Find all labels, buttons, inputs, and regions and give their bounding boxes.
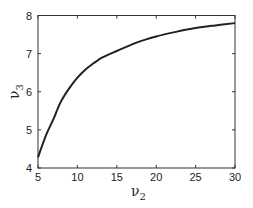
x-tick-label: 10 <box>71 171 83 183</box>
x-tick-label: 15 <box>111 171 123 183</box>
y-tick-label: 6 <box>26 86 32 98</box>
x-tick-labels: 51015202530 <box>35 171 241 183</box>
x-tick-label: 5 <box>35 171 41 183</box>
x-tick-label: 30 <box>229 171 241 183</box>
x-axis-label: ν2 <box>131 183 146 202</box>
x-tick-label: 20 <box>150 171 162 183</box>
y-axis-label-sub: 3 <box>14 84 25 90</box>
x-axis-label-sub: 2 <box>140 191 146 202</box>
x-tick-label: 25 <box>189 171 201 183</box>
y-tick-labels: 45678 <box>26 10 32 175</box>
y-tick-label: 4 <box>26 162 32 174</box>
y-tick-label: 7 <box>26 48 32 60</box>
y-axis-label: ν3 <box>6 84 25 99</box>
y-tick-label: 5 <box>26 124 32 136</box>
x-axis-label-main: ν <box>131 183 140 199</box>
data-line <box>38 23 235 157</box>
y-axis-label-main: ν <box>6 90 22 99</box>
y-tick-label: 8 <box>26 10 32 22</box>
line-chart: 51015202530 45678 ν2 ν3 <box>0 0 253 208</box>
